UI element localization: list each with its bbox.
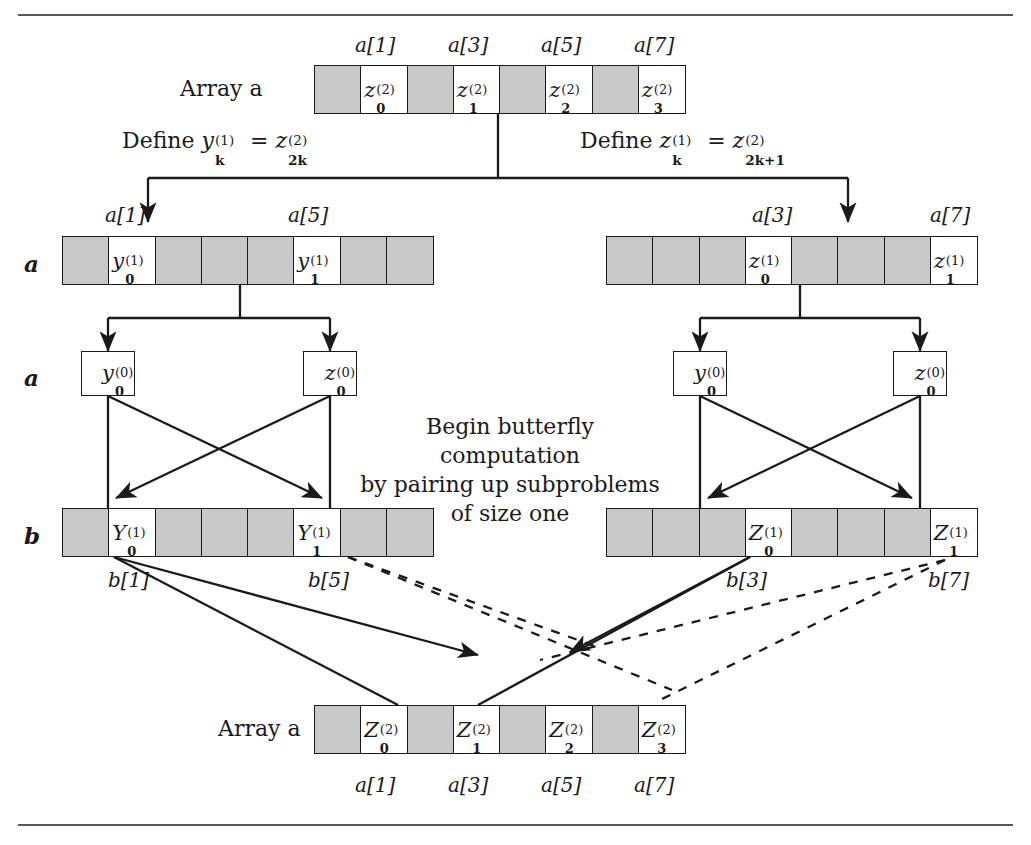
level0-box-label-2: y(0)0 (694, 363, 706, 384)
b-left-cell-6 (341, 509, 387, 556)
top-array-label-5: z(2)2 (549, 79, 560, 100)
level0-row-label: a (24, 366, 39, 389)
bottom-array-label-1: Z(2)0 (364, 719, 379, 740)
top-array-cell-1: z(2)0 (361, 66, 407, 113)
level1-right-array: z(1)0z(1)1 (606, 236, 978, 285)
b-left-label-1: Y(1)0 (112, 522, 126, 543)
b-right-cell-4 (792, 509, 838, 556)
top-index-a1: a[1] (355, 35, 395, 55)
level1-right-cell-5 (838, 237, 884, 284)
bottom-index-a7: a[7] (634, 775, 674, 795)
b-right-cell-1 (653, 509, 699, 556)
bottom-array-label-3: Z(2)1 (457, 719, 472, 740)
b-right-cell-0 (607, 509, 653, 556)
level0-box-label-3: z(0)0 (914, 363, 925, 384)
butterfly-right-cross-z-to-Z0 (708, 396, 920, 498)
bottom-array-cell-1: Z(2)0 (361, 706, 407, 753)
b-right-cell-5 (838, 509, 884, 556)
level1-left-cell-3 (202, 237, 248, 284)
b-index-b1: b[1] (108, 570, 149, 590)
top-array-label-1: z(2)0 (364, 79, 375, 100)
level1-left-cell-2 (156, 237, 202, 284)
merge-Z0-to-Z1 (478, 557, 750, 705)
level1-right-cell-1 (653, 237, 699, 284)
bottom-array: Z(2)0Z(2)1Z(2)2Z(2)3 (314, 705, 686, 754)
b-left-cell-7 (387, 509, 433, 556)
b-left-label-5: Y(1)1 (297, 522, 311, 543)
level0-box-label-1: z(0)0 (324, 363, 335, 384)
level1-right-cell-7: z(1)1 (931, 237, 977, 284)
top-horizontal-rule (18, 14, 1013, 16)
top-index-a7: a[7] (634, 35, 674, 55)
b-right-label-3: Z(1)0 (749, 522, 764, 543)
bottom-array-cell-7: Z(2)3 (639, 706, 685, 753)
bottom-array-label-7: Z(2)3 (642, 719, 657, 740)
level0-box-right-z0: z(0)0 (893, 351, 947, 396)
b-right-cell-3: Z(1)0 (746, 509, 792, 556)
level1-left-array: y(1)0y(1)1 (62, 236, 434, 285)
level1-right-index-a3: a[3] (752, 205, 792, 225)
merge-Z0-to-Z3 (570, 557, 750, 652)
b-left-cell-0 (63, 509, 109, 556)
top-array-label-3: z(2)1 (457, 79, 468, 100)
level1-right-cell-2 (700, 237, 746, 284)
b-right-cell-6 (885, 509, 931, 556)
bottom-array-title: Array a (218, 718, 301, 740)
merge-Y0-to-Z0 (114, 557, 398, 705)
merge-Y1-dashed-b (348, 557, 672, 690)
level1-right-cell-3: z(1)0 (746, 237, 792, 284)
level0-box-label-0: y(0)0 (102, 363, 114, 384)
top-array-title: Array a (180, 78, 263, 100)
level1-left-row-label: a (24, 252, 39, 275)
b-index-b5: b[5] (308, 570, 349, 590)
level1-left-index-a5: a[5] (288, 205, 328, 225)
b-left-cell-4 (248, 509, 294, 556)
b-right-cell-7: Z(1)1 (931, 509, 977, 556)
level1-right-label-3: z(1)0 (749, 250, 760, 271)
bottom-array-cell-6 (593, 706, 639, 753)
level1-left-label-1: y(1)0 (112, 250, 124, 271)
level0-box-left-z0: z(0)0 (303, 351, 357, 396)
top-index-a3: a[3] (448, 35, 488, 55)
bottom-array-cell-2 (408, 706, 454, 753)
definition-left: Define y(1)k = z(2)2k (122, 130, 318, 152)
level1-left-cell-6 (341, 237, 387, 284)
level1-left-cell-7 (387, 237, 433, 284)
b-left-array: Y(1)0Y(1)1 (62, 508, 434, 557)
level1-right-cell-4 (792, 237, 838, 284)
bottom-array-cell-0 (315, 706, 361, 753)
top-array-cell-7: z(2)3 (639, 66, 685, 113)
level0-box-right-y0: y(0)0 (673, 351, 727, 396)
b-right-cell-2 (700, 509, 746, 556)
top-array-cell-3: z(2)1 (454, 66, 500, 113)
top-array-cell-0 (315, 66, 361, 113)
figure-canvas: Array a a[1] a[3] a[5] a[7] z(2)0z(2)1z(… (0, 0, 1031, 845)
level1-left-label-5: y(1)1 (297, 250, 309, 271)
butterfly-left-cross-y-to-Y1 (108, 396, 322, 498)
top-array-cell-6 (593, 66, 639, 113)
bottom-array-cell-4 (500, 706, 546, 753)
level0-box-left-y0: y(0)0 (81, 351, 135, 396)
merge-Y1-dashed-a (348, 557, 600, 648)
bottom-index-a1: a[1] (355, 775, 395, 795)
definition-right: Define z(1)k = z(2)2k+1 (580, 130, 791, 152)
b-left-cell-1: Y(1)0 (109, 509, 155, 556)
level1-left-cell-0 (63, 237, 109, 284)
b-left-row-label: b (24, 524, 40, 547)
b-index-b7: b[7] (928, 570, 969, 590)
butterfly-left-cross-z-to-Y0 (116, 396, 330, 498)
level1-left-index-a1: a[1] (105, 205, 145, 225)
top-array-cell-5: z(2)2 (546, 66, 592, 113)
top-index-a5: a[5] (541, 35, 581, 55)
merge-Z1-dashed-b (660, 560, 945, 700)
bottom-horizontal-rule (18, 824, 1013, 826)
b-left-cell-5: Y(1)1 (294, 509, 340, 556)
level1-right-index-a7: a[7] (930, 205, 970, 225)
top-array-cell-2 (408, 66, 454, 113)
level1-right-cell-0 (607, 237, 653, 284)
top-array-cell-4 (500, 66, 546, 113)
bottom-index-a5: a[5] (541, 775, 581, 795)
b-left-cell-3 (202, 509, 248, 556)
butterfly-right-cross-y-to-Z1 (700, 396, 912, 498)
level1-left-cell-5: y(1)1 (294, 237, 340, 284)
